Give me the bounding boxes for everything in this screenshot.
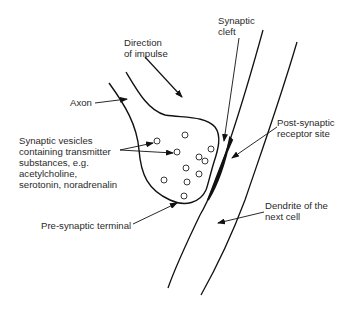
direction-arrow: [145, 57, 182, 97]
pre-synaptic-pointer: [133, 203, 177, 224]
vesicles-line-5: serotonin, noradrenalin: [19, 179, 117, 190]
post-synaptic-line-2: receptor site: [277, 128, 335, 139]
vesicle-pointer-1: [120, 143, 153, 150]
cleft-line-2: cleft: [218, 26, 255, 37]
direction-of-impulse-label: Direction of impulse: [124, 37, 168, 59]
axon-label: Axon: [70, 97, 92, 108]
dendrite-line-1: Dendrite of the: [265, 200, 328, 211]
vesicle-pointer-2: [120, 150, 173, 153]
pre-synaptic-terminal-label: Pre-synaptic terminal: [41, 220, 131, 231]
cleft-line-1: Synaptic: [218, 15, 255, 26]
vesicles-line-4: acetylcholine,: [19, 168, 117, 179]
post-synaptic-pointer: [232, 127, 277, 158]
dendrite-pointer: [218, 212, 264, 223]
axon-right-membrane: [126, 72, 219, 190]
dendrite-line-2: next cell: [265, 211, 328, 222]
dendrite-label: Dendrite of the next cell: [265, 200, 328, 222]
cleft-pointer: [224, 38, 239, 141]
post-synaptic-label: Post-synaptic receptor site: [277, 117, 335, 139]
synapse-diagram: Direction of impulse Synaptic cleft Axon…: [0, 0, 352, 311]
post-synaptic-line-1: Post-synaptic: [277, 117, 335, 128]
vesicles-line-1: Synaptic vesicles: [19, 135, 117, 146]
direction-line-2: of impulse: [124, 48, 168, 59]
axon-left-membrane: [109, 83, 206, 203]
vesicles-line-2: containing transmitter: [19, 146, 117, 157]
synaptic-vesicles: [154, 132, 214, 199]
vesicles-line-3: substances, e.g.: [19, 157, 117, 168]
synaptic-vesicles-label: Synaptic vesicles containing transmitter…: [19, 135, 117, 190]
direction-line-1: Direction: [124, 37, 168, 48]
synaptic-cleft-label: Synaptic cleft: [218, 15, 255, 37]
